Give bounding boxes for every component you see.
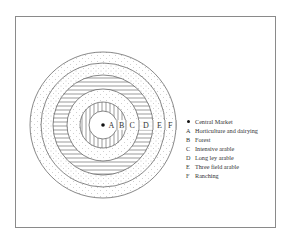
legend-key: A xyxy=(186,126,193,135)
legend-item-b: B Forest xyxy=(186,135,278,144)
legend-label: Ranching xyxy=(195,171,219,180)
legend-label: Central Market xyxy=(195,117,233,126)
legend-key: E xyxy=(186,162,193,171)
legend-label: Intensive arable xyxy=(195,144,234,153)
legend-item-e: E Three field arable xyxy=(186,162,278,171)
legend-label: Forest xyxy=(195,135,210,144)
ring-letter-a: A xyxy=(109,121,115,130)
ring-letter-c: C xyxy=(130,121,135,130)
legend-label: Long ley arable xyxy=(195,153,234,162)
ring-letter-e: E xyxy=(157,121,162,130)
ring-letter-d: D xyxy=(143,121,149,130)
ring-letter-f: F xyxy=(168,121,173,130)
ring-letter-b: B xyxy=(119,121,124,130)
legend-item-f: F Ranching xyxy=(186,171,278,180)
legend-key: B xyxy=(186,135,193,144)
central-market-dot xyxy=(101,123,105,127)
legend-key: F xyxy=(186,171,193,180)
legend-key: D xyxy=(186,153,193,162)
legend-item-c: C Intensive arable xyxy=(186,144,278,153)
legend-item-d: D Long ley arable xyxy=(186,153,278,162)
legend-key: C xyxy=(186,144,193,153)
legend-item-a: A Horticulture and dairying xyxy=(186,126,278,135)
legend-label: Horticulture and dairying xyxy=(195,126,258,135)
bullet-icon xyxy=(187,120,190,123)
legend-item-central-market: Central Market xyxy=(186,117,278,126)
legend: Central Market A Horticulture and dairyi… xyxy=(186,117,278,180)
legend-label: Three field arable xyxy=(195,162,239,171)
